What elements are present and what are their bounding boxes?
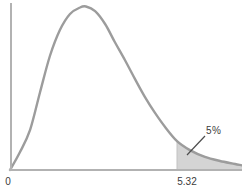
tail-percentage-label: 5% <box>206 125 221 136</box>
origin-tick-label: 0 <box>5 176 11 187</box>
shaded-tail-region <box>177 141 242 170</box>
distribution-plot: 0 5.32 5% <box>0 0 242 194</box>
density-curve <box>10 6 242 170</box>
distribution-figure: 0 5.32 5% <box>0 0 242 194</box>
critical-value-label: 5.32 <box>177 176 197 187</box>
